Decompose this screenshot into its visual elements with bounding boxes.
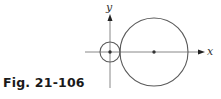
small-circle-center-dot — [108, 50, 111, 53]
y-axis-label: y — [105, 1, 113, 14]
y-axis-arrow-icon — [108, 14, 113, 21]
circles-diagram: x y — [0, 0, 221, 99]
large-circle-center-dot — [152, 50, 155, 53]
x-axis-arrow-icon — [198, 50, 205, 55]
x-axis-label: x — [207, 45, 214, 58]
